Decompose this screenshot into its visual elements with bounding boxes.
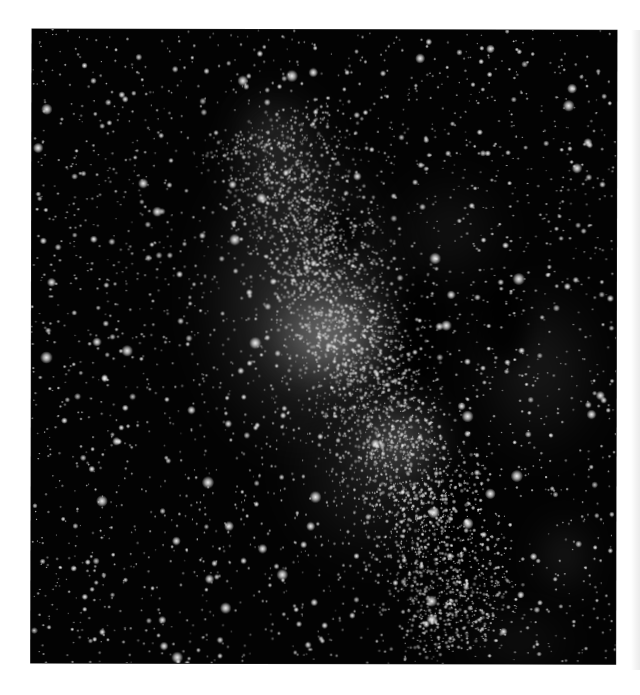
page-edge-shadow: [631, 30, 640, 670]
milky-way-photograph: [31, 29, 617, 664]
star-field: [31, 29, 617, 664]
page: [0, 0, 640, 695]
